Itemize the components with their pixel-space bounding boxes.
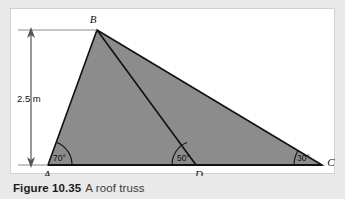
- dimension-label-height: 2.5 m: [17, 93, 41, 104]
- caption-number: Figure 10.35: [13, 182, 81, 194]
- vertex-label-c: C: [327, 156, 335, 168]
- caption-text: A roof truss: [85, 182, 144, 194]
- figure-caption: Figure 10.35 A roof truss: [0, 176, 345, 199]
- angle-label-d: 50°: [177, 153, 190, 163]
- angle-label-a: 70°: [53, 153, 66, 163]
- figure-container: 70° 50° 30° B A D C 2.5 m Figure 10.35 A…: [0, 0, 345, 199]
- roof-truss-diagram: 70° 50° 30° B A D C 2.5 m: [0, 0, 345, 180]
- angle-label-c: 30°: [297, 153, 310, 163]
- vertex-label-b: B: [90, 13, 97, 25]
